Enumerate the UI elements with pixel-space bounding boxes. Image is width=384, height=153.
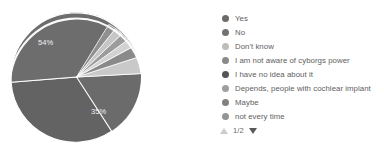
legend-swatch-icon <box>222 29 229 36</box>
pie-chart-svg: 54% 35% <box>0 0 160 153</box>
chart-legend: Yes No Don't know I am not aware of cybo… <box>218 11 384 123</box>
legend-item-depends-cochlear-implant[interactable]: Depends, people with cochlear implant <box>218 81 384 95</box>
legend-item-maybe[interactable]: Maybe <box>218 95 384 109</box>
page-up-icon[interactable] <box>220 128 228 134</box>
legend-swatch-icon <box>222 99 229 106</box>
legend-swatch-icon <box>222 113 229 120</box>
legend-item-label: Yes <box>235 14 248 23</box>
legend-item-not-every-time[interactable]: not every time <box>218 109 384 123</box>
legend-swatch-icon <box>222 71 229 78</box>
legend-item-label: No <box>235 28 245 37</box>
legend-swatch-icon <box>222 85 229 92</box>
legend-swatch-icon <box>222 15 229 22</box>
legend-item-dont-know[interactable]: Don't know <box>218 39 384 53</box>
legend-item-label: Don't know <box>235 42 274 51</box>
legend-item-no-idea-about-it[interactable]: I have no idea about it <box>218 67 384 81</box>
legend-swatch-icon <box>222 43 229 50</box>
legend-item-no[interactable]: No <box>218 25 384 39</box>
pie-label-yes: 54% <box>38 38 54 47</box>
legend-item-label: Maybe <box>235 98 259 107</box>
pie-chart-area: 54% 35% <box>0 0 160 153</box>
legend-item-label: not every time <box>235 112 285 121</box>
page-down-icon[interactable] <box>249 128 257 134</box>
legend-page-indicator: 1/2 <box>233 126 244 135</box>
legend-item-yes[interactable]: Yes <box>218 11 384 25</box>
legend-item-label: I am not aware of cyborgs power <box>235 56 350 65</box>
legend-item-not-aware-of-cyborgs-power[interactable]: I am not aware of cyborgs power <box>218 53 384 67</box>
pie-label-no: 35% <box>91 107 107 116</box>
legend-item-label: I have no idea about it <box>235 70 313 79</box>
legend-swatch-icon <box>222 57 229 64</box>
legend-pager: 1/2 <box>220 125 257 136</box>
pie-chart-widget: 54% 35% Yes No Don't know I am not aware… <box>0 0 384 153</box>
legend-item-label: Depends, people with cochlear implant <box>235 84 371 93</box>
